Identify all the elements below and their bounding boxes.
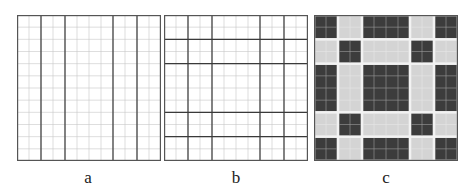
grid-a-graphic [17,15,161,161]
panel-c-block-pattern [314,15,458,161]
panel-b-grid-both-dividers [164,15,308,161]
panel-label-c: c [366,168,406,188]
panel-a-grid-vertical-dividers [17,15,161,161]
grid-b-graphic [164,15,308,161]
grid-c-graphic [314,15,458,161]
panel-label-b: b [216,168,256,188]
panel-label-a: a [68,168,108,188]
